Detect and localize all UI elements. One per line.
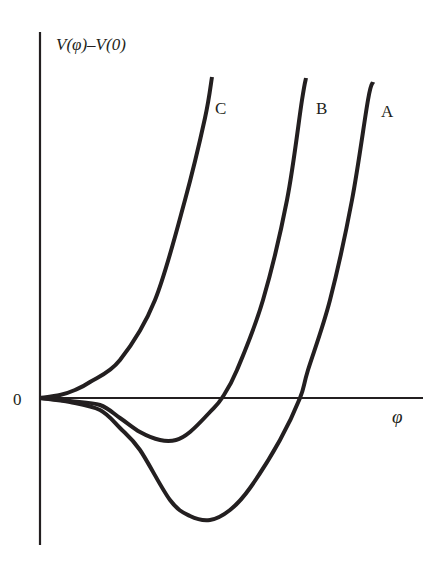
curve-label-a: A <box>381 102 394 121</box>
curve-label-c: C <box>215 99 226 118</box>
x-axis-label: φ <box>392 406 403 427</box>
y-axis-label: V(φ)–V(0) <box>56 35 126 54</box>
curve-c <box>40 77 212 398</box>
origin-label: 0 <box>13 390 22 409</box>
curve-label-b: B <box>316 99 327 118</box>
potential-chart: V(φ)–V(0) φ 0 C B A <box>0 0 447 565</box>
curve-a <box>40 82 373 520</box>
